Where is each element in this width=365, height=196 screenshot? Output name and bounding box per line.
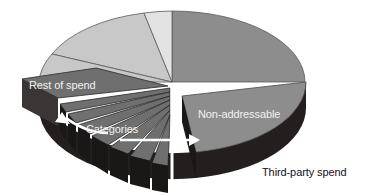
pie-chart-figure: Rest of spend Categories Non-addressable… xyxy=(0,0,365,196)
label-rest-of-spend: Rest of spend xyxy=(29,79,96,91)
slice-non-addressable-upper-top xyxy=(172,11,305,82)
category-front-7 xyxy=(152,163,168,193)
label-categories: Categories xyxy=(86,123,138,135)
category-front-6 xyxy=(130,156,150,189)
label-third-party-spend: Third-party spend xyxy=(262,166,347,178)
label-non-addressable: Non-addressable xyxy=(198,108,280,120)
